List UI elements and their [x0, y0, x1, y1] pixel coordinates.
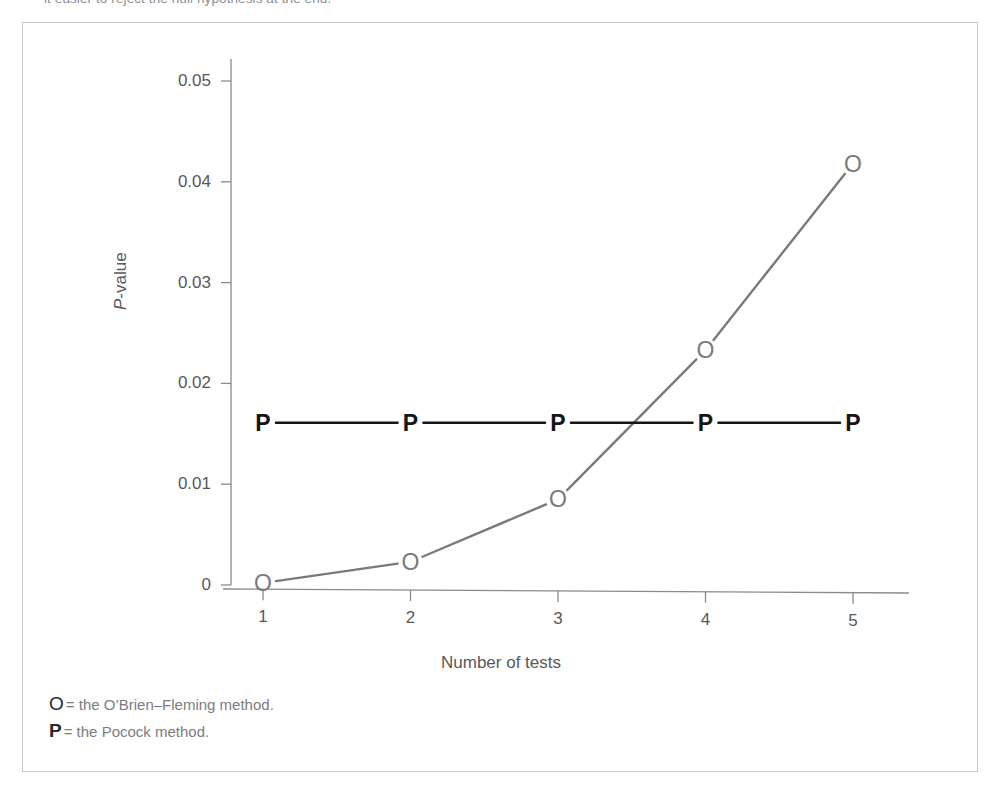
- chart-legend: O= the O’Brien–Fleming method. P= the Po…: [49, 691, 949, 745]
- y-axis-title-italic-p: P: [111, 299, 130, 310]
- marker-p: P: [550, 411, 565, 434]
- series-segment-o: [276, 564, 398, 581]
- marker-p: P: [698, 411, 713, 434]
- x-axis-tick-label: 3: [553, 609, 562, 629]
- x-axis-tick-label: 2: [406, 608, 415, 628]
- y-axis-tick-label: 0: [133, 575, 211, 595]
- x-axis-tick-label: 4: [701, 610, 710, 630]
- legend-key-p: P: [49, 720, 62, 741]
- marker-o: O: [844, 152, 862, 175]
- plot-area: 00.010.020.030.040.05 12345 OOOOOPPPPP P…: [23, 23, 979, 773]
- legend-row-pocock: P= the Pocock method.: [49, 718, 949, 745]
- series-segment-o: [567, 359, 696, 490]
- y-axis-title-suffix: -value: [111, 252, 130, 298]
- marker-o: O: [549, 488, 567, 511]
- y-axis-tick-label: 0.05: [133, 71, 211, 91]
- legend-text-pocock: = the Pocock method.: [64, 723, 210, 740]
- legend-key-o: O: [49, 693, 64, 714]
- y-axis-ticks: [221, 81, 231, 585]
- figure-frame: 00.010.020.030.040.05 12345 OOOOOPPPPP P…: [22, 22, 978, 772]
- legend-row-obrien-fleming: O= the O’Brien–Fleming method.: [49, 691, 949, 718]
- x-axis-line: [223, 589, 909, 593]
- marker-o: O: [254, 571, 272, 594]
- series-segment-o: [422, 504, 546, 556]
- page-caption-clipped: it easier to reject the null hypothesis …: [44, 0, 331, 6]
- y-axis-tick-label: 0.04: [133, 172, 211, 192]
- marker-p: P: [845, 411, 860, 434]
- marker-p: P: [255, 411, 270, 434]
- series-segment-o: [714, 174, 845, 340]
- y-axis-tick-label: 0.03: [133, 273, 211, 293]
- y-axis-tick-label: 0.02: [133, 373, 211, 393]
- x-axis-ticks: [263, 589, 853, 603]
- y-axis-title: P-value: [111, 252, 131, 310]
- marker-o: O: [402, 550, 420, 573]
- x-axis-title: Number of tests: [23, 653, 979, 673]
- marker-o: O: [697, 339, 715, 362]
- y-axis-tick-label: 0.01: [133, 474, 211, 494]
- marker-p: P: [403, 411, 418, 434]
- x-axis-tick-label: 1: [258, 607, 267, 627]
- legend-text-obrien-fleming: = the O’Brien–Fleming method.: [66, 696, 274, 713]
- x-axis-tick-label: 5: [848, 611, 857, 631]
